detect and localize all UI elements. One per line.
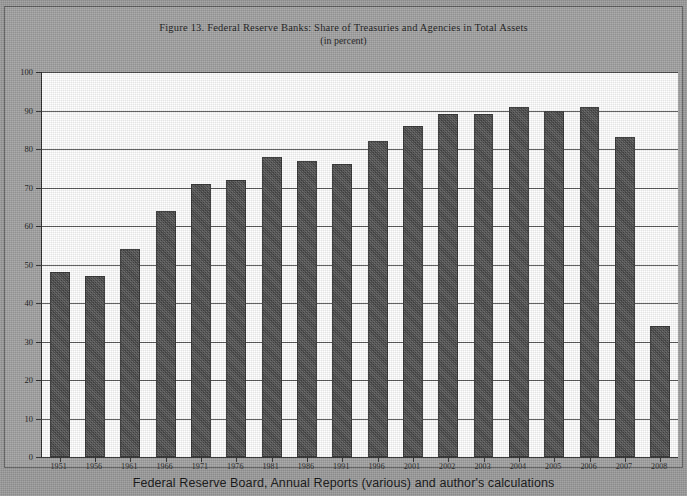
bar-slot <box>431 72 466 457</box>
xtick-label-1971: 1971 <box>182 462 217 476</box>
bar-1986[interactable] <box>297 161 317 457</box>
xtick-label-1981: 1981 <box>253 462 288 476</box>
bar-slot <box>395 72 430 457</box>
bar-slot <box>113 72 148 457</box>
ytick-label-40: 40 <box>25 298 34 308</box>
bar-slot <box>289 72 324 457</box>
chart-subtitle: (in percent) <box>5 34 682 48</box>
bar-2005[interactable] <box>544 111 564 458</box>
bar-1976[interactable] <box>226 180 246 457</box>
ytick-label-90: 90 <box>25 106 34 116</box>
bar-slot <box>148 72 183 457</box>
bar-1951[interactable] <box>50 272 70 457</box>
bar-2003[interactable] <box>474 114 494 457</box>
bar-1956[interactable] <box>85 276 105 457</box>
page-title: Figure 13. Federal Reserve Banks: Share … <box>5 21 682 34</box>
figure-title-block: Figure 13. Federal Reserve Banks: Share … <box>5 21 682 48</box>
ytick-label-60: 60 <box>25 221 34 231</box>
x-axis-labels: 1951 1956 1961 1966 1971 1976 1981 1986 … <box>41 462 677 476</box>
bar-1991[interactable] <box>332 164 352 457</box>
bar-slot <box>643 72 678 457</box>
bar-2006[interactable] <box>580 107 600 457</box>
bar-slot <box>77 72 112 457</box>
xtick-label-1961: 1961 <box>112 462 147 476</box>
bar-1996[interactable] <box>368 141 388 457</box>
ytick-label-20: 20 <box>25 375 34 385</box>
bar-slot <box>219 72 254 457</box>
bar-2004[interactable] <box>509 107 529 457</box>
ytick-label-0: 0 <box>29 452 33 462</box>
xtick-label-2003: 2003 <box>465 462 500 476</box>
plot-area: 100 90 80 70 60 50 40 30 20 10 0 <box>41 72 678 458</box>
xtick-label-2001: 2001 <box>394 462 429 476</box>
bar-1966[interactable] <box>156 211 176 457</box>
bar-2008[interactable] <box>650 326 670 457</box>
ytick-label-30: 30 <box>25 337 34 347</box>
bar-slot <box>183 72 218 457</box>
bar-slot <box>325 72 360 457</box>
xtick-label-1976: 1976 <box>218 462 253 476</box>
figure-container: Figure 13. Federal Reserve Banks: Share … <box>4 6 683 468</box>
xtick-label-2008: 2008 <box>642 462 677 476</box>
bar-1971[interactable] <box>191 184 211 457</box>
ytick-mark-0 <box>36 457 42 458</box>
bar-1981[interactable] <box>262 157 282 457</box>
bar-slot <box>254 72 289 457</box>
ytick-label-10: 10 <box>25 414 34 424</box>
xtick-label-2002: 2002 <box>430 462 465 476</box>
xtick-label-1951: 1951 <box>41 462 76 476</box>
bar-2007[interactable] <box>615 137 635 457</box>
bar-slot <box>607 72 642 457</box>
bar-slot <box>466 72 501 457</box>
xtick-label-2005: 2005 <box>536 462 571 476</box>
bar-series <box>42 72 678 457</box>
xtick-label-2006: 2006 <box>571 462 606 476</box>
bar-slot <box>42 72 77 457</box>
source-note: Federal Reserve Board, Annual Reports (v… <box>0 476 687 490</box>
ytick-label-50: 50 <box>25 260 34 270</box>
bar-slot <box>537 72 572 457</box>
xtick-label-2007: 2007 <box>606 462 641 476</box>
bar-2001[interactable] <box>403 126 423 457</box>
bar-1961[interactable] <box>120 249 140 457</box>
bar-slot <box>501 72 536 457</box>
xtick-label-2004: 2004 <box>500 462 535 476</box>
bar-slot <box>572 72 607 457</box>
ytick-label-70: 70 <box>25 183 34 193</box>
xtick-label-1966: 1966 <box>147 462 182 476</box>
bar-2002[interactable] <box>438 114 458 457</box>
ytick-label-100: 100 <box>20 67 33 77</box>
xtick-label-1991: 1991 <box>324 462 359 476</box>
xtick-label-1996: 1996 <box>359 462 394 476</box>
xtick-label-1956: 1956 <box>76 462 111 476</box>
xtick-label-1986: 1986 <box>288 462 323 476</box>
ytick-label-80: 80 <box>25 144 34 154</box>
bar-slot <box>360 72 395 457</box>
